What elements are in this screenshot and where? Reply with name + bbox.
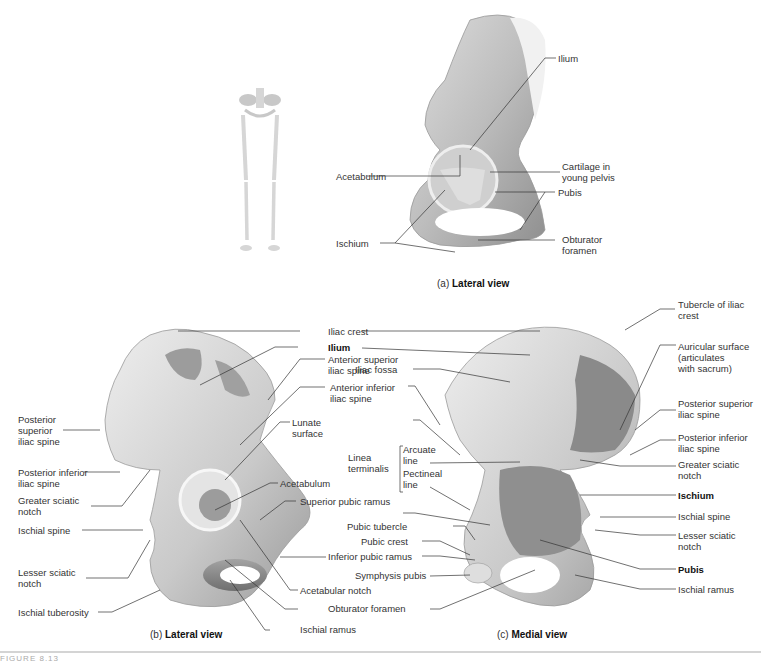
- label-a-cartilage-2: young pelvis: [562, 172, 615, 183]
- label-c-ischium: Ischium: [678, 490, 714, 501]
- label-c-psis-1: Posterior superior: [678, 398, 753, 409]
- caption-b-title: Lateral view: [165, 629, 222, 640]
- label-a-cartilage-1: Cartilage in: [562, 161, 610, 172]
- label-b-psis-1: Posterior: [18, 414, 56, 425]
- label-a-acetabulum: Acetabulum: [336, 171, 386, 182]
- label-b-obturator-foramen: Obturator foramen: [328, 603, 406, 614]
- label-c-pectineal-1: Pectineal: [403, 468, 442, 479]
- label-b-lsn-1: Lesser sciatic: [18, 567, 76, 578]
- caption-b: (b) Lateral view: [150, 629, 222, 640]
- label-c-pectineal-2: line: [403, 479, 418, 490]
- label-b-gsn-2: notch: [18, 506, 41, 517]
- label-b-psis-3: iliac spine: [18, 436, 60, 447]
- label-c-piis-2: iliac spine: [678, 443, 720, 454]
- label-c-piis-1: Posterior inferior: [678, 432, 748, 443]
- label-c-arcuate-2: line: [403, 455, 418, 466]
- label-b-lunate-1: Lunate: [292, 417, 321, 428]
- label-b-aiis-1: Anterior inferior: [330, 382, 395, 393]
- label-c-ischial-spine: Ischial spine: [678, 511, 730, 522]
- hip-bone-medial: [445, 327, 640, 606]
- skeleton-thumbnail: [239, 88, 281, 251]
- caption-c-prefix: (c): [497, 629, 509, 640]
- caption-a: (a) Lateral view: [437, 278, 509, 289]
- label-c-iliac-fossa: Iliac fossa: [355, 364, 397, 375]
- footer-divider: [0, 651, 761, 653]
- caption-a-title: Lateral view: [452, 278, 509, 289]
- label-c-linea-2: terminalis: [348, 463, 389, 474]
- caption-c: (c) Medial view: [497, 629, 567, 640]
- label-c-pubic-tubercle: Pubic tubercle: [347, 521, 407, 532]
- label-b-piis-2: iliac spine: [18, 478, 60, 489]
- label-b-acetabular-notch: Acetabular notch: [300, 585, 371, 596]
- figure-label: FIGURE 8.13: [0, 654, 59, 663]
- label-b-iliac-crest: Iliac crest: [328, 326, 368, 337]
- label-a-ilium: Ilium: [558, 53, 578, 64]
- label-c-linea-1: Linea: [348, 452, 371, 463]
- caption-c-title: Medial view: [511, 629, 567, 640]
- label-b-superior-pubic-ramus: Superior pubic ramus: [300, 496, 390, 507]
- label-b-lsn-2: notch: [18, 578, 41, 589]
- label-a-pubis: Pubis: [558, 187, 582, 198]
- label-c-lsn-2: notch: [678, 541, 701, 552]
- label-c-gsn-1: Greater sciatic: [678, 459, 739, 470]
- label-c-tubercle-1: Tubercle of iliac: [678, 299, 744, 310]
- label-c-lsn-1: Lesser sciatic: [678, 530, 736, 541]
- label-b-psis-2: superior: [18, 425, 52, 436]
- label-b-aiis-2: iliac spine: [330, 393, 372, 404]
- label-b-inferior-pubic-ramus: Inferior pubic ramus: [328, 551, 412, 562]
- label-b-piis-1: Posterior inferior: [18, 467, 88, 478]
- label-a-obturator-1: Obturator: [562, 234, 602, 245]
- label-c-auricular-2: (articulates: [678, 352, 724, 363]
- label-b-ischial-tuberosity: Ischial tuberosity: [18, 607, 89, 618]
- label-b-gsn-1: Greater sciatic: [18, 495, 79, 506]
- label-b-ilium: Ilium: [328, 342, 350, 353]
- label-b-ischial-spine: Ischial spine: [18, 525, 70, 536]
- label-c-psis-2: iliac spine: [678, 409, 720, 420]
- hip-bone-lateral-young: [410, 15, 546, 247]
- label-c-symphysis-pubis: Symphysis pubis: [355, 570, 426, 581]
- label-c-ischial-ramus: Ischial ramus: [678, 584, 734, 595]
- label-c-gsn-2: notch: [678, 470, 701, 481]
- label-b-acetabulum: Acetabulum: [280, 478, 330, 489]
- label-c-auricular-1: Auricular surface: [678, 341, 749, 352]
- label-a-ischium: Ischium: [336, 238, 369, 249]
- label-c-auricular-3: with sacrum): [678, 363, 732, 374]
- label-a-obturator-2: foramen: [562, 245, 597, 256]
- label-c-pubis: Pubis: [678, 564, 704, 575]
- label-b-ischial-ramus: Ischial ramus: [300, 624, 356, 635]
- caption-a-prefix: (a): [437, 278, 449, 289]
- caption-b-prefix: (b): [150, 629, 162, 640]
- label-c-arcuate-1: Arcuate: [403, 444, 436, 455]
- label-c-pubic-crest: Pubic crest: [361, 536, 408, 547]
- label-b-lunate-2: surface: [292, 428, 323, 439]
- label-c-tubercle-2: crest: [678, 310, 699, 321]
